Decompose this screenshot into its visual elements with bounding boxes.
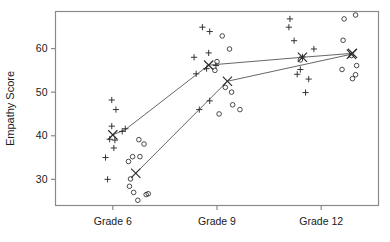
data-point-plus [112, 137, 118, 143]
data-point-plus [113, 106, 119, 112]
plot-frame [56, 12, 379, 206]
data-point-plus [306, 76, 312, 82]
data-point-circle [230, 102, 235, 107]
data-point-circle [238, 107, 243, 112]
group-mean-marker [131, 169, 140, 178]
data-point-circle [350, 76, 355, 81]
data-point-plus [291, 38, 297, 44]
data-point-circle [127, 184, 132, 189]
data-point-plus [287, 16, 293, 22]
data-point-circle [220, 34, 225, 39]
x-tick-label-2: Grade 12 [299, 215, 343, 227]
x-tick-label-0: Grade 6 [94, 215, 132, 227]
data-point-circle [130, 154, 135, 159]
data-point-circle [353, 13, 358, 18]
data-point-plus [206, 50, 212, 56]
data-point-plus [302, 89, 308, 95]
data-point-circle [131, 190, 136, 195]
data-point-circle [138, 154, 143, 159]
y-tick-label-30: 30 [36, 173, 48, 185]
y-axis-label: Empathy Score [4, 71, 16, 146]
data-point-circle [342, 17, 347, 22]
data-point-circle [217, 112, 222, 117]
data-point-plus [311, 46, 317, 52]
data-point-circle [227, 47, 232, 52]
data-point-circle [137, 137, 142, 142]
data-point-plus [111, 145, 117, 151]
data-point-plus [286, 24, 292, 30]
x-tick-label-1: Grade 9 [198, 215, 236, 227]
data-point-plus [207, 28, 213, 34]
y-tick-label-50: 50 [36, 86, 48, 98]
scatter-plot: 30405060Grade 6Grade 9Grade 12Empathy Sc… [0, 0, 390, 242]
data-point-plus [109, 123, 115, 129]
data-point-circle [126, 159, 131, 164]
y-tick-label-60: 60 [36, 42, 48, 54]
group-mean-marker [108, 130, 117, 139]
data-point-plus [294, 71, 300, 77]
data-point-circle [341, 38, 346, 43]
chart-container: 30405060Grade 6Grade 9Grade 12Empathy Sc… [0, 0, 390, 242]
data-point-plus [104, 176, 110, 182]
data-point-plus [191, 54, 197, 60]
data-point-circle [353, 72, 358, 77]
data-point-plus [199, 24, 205, 30]
data-point-plus [102, 154, 108, 160]
trend-line-circle-trend [136, 54, 352, 173]
data-point-circle [215, 59, 220, 64]
data-point-plus [109, 97, 115, 103]
data-point-plus [207, 98, 213, 104]
data-point-circle [340, 67, 345, 72]
data-point-circle [354, 63, 359, 68]
group-mean-marker [223, 77, 232, 86]
data-point-plus [107, 136, 113, 142]
data-point-circle [229, 90, 234, 95]
data-point-circle [136, 198, 141, 203]
data-point-circle [142, 142, 147, 147]
y-tick-label-40: 40 [36, 129, 48, 141]
data-point-circle [213, 68, 218, 73]
data-point-plus [297, 66, 303, 72]
